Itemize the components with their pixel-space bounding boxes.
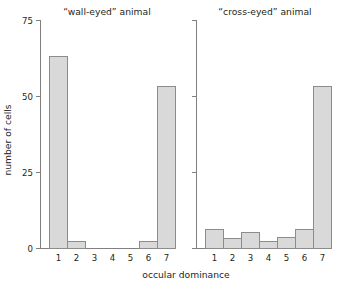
bar-right-6 [296, 230, 314, 248]
bar-left-7 [158, 87, 176, 248]
bar-left-6 [140, 242, 158, 248]
bar-right-7 [314, 87, 332, 248]
xtick-label-left-1: 1 [56, 253, 61, 263]
xtick-label-right-1: 1 [212, 253, 217, 263]
bar-right-3 [242, 233, 260, 248]
x-axis-title: occular dominance [142, 269, 230, 280]
xtick-label-left-5: 5 [128, 253, 133, 263]
xtick-label-right-3: 3 [248, 253, 253, 263]
xtick-label-left-4: 4 [110, 253, 115, 263]
xtick-label-left-2: 2 [74, 253, 79, 263]
xtick-label-right-7: 7 [320, 253, 325, 263]
xtick-label-right-5: 5 [284, 253, 289, 263]
bar-right-5 [278, 237, 296, 248]
xtick-label-right-4: 4 [266, 253, 271, 263]
xtick-label-left-3: 3 [92, 253, 97, 263]
panel-title-right: “cross-eyed” animal [218, 6, 311, 17]
figure-container: number of cells “wall-eyed” animal 75 50… [0, 0, 351, 288]
xtick-label-right-2: 2 [230, 253, 235, 263]
panel-title-left: “wall-eyed” animal [63, 6, 150, 17]
bar-right-4 [260, 242, 278, 248]
panel-cross-eyed: “cross-eyed” animal 1 2 3 4 5 6 [192, 6, 332, 263]
ocular-dominance-histogram: number of cells “wall-eyed” animal 75 50… [0, 0, 351, 288]
xtick-label-left-6: 6 [146, 253, 151, 263]
panel-wall-eyed: “wall-eyed” animal 75 50 25 0 1 [22, 6, 175, 263]
bar-left-1 [50, 57, 68, 249]
ytick-label-75: 75 [22, 16, 33, 26]
ytick-label-0: 0 [28, 244, 33, 254]
xtick-label-left-7: 7 [164, 253, 169, 263]
y-axis-title: number of cells [2, 104, 13, 175]
bar-left-2 [68, 242, 86, 248]
ytick-label-50: 50 [22, 92, 33, 102]
bar-right-1 [206, 230, 224, 248]
xtick-label-right-6: 6 [302, 253, 307, 263]
ytick-label-25: 25 [22, 168, 33, 178]
bar-right-2 [224, 239, 242, 248]
